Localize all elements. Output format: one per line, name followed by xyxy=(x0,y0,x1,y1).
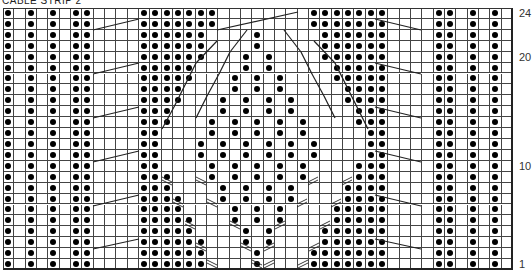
chart-cell xyxy=(26,74,37,85)
purl-dot-icon xyxy=(492,32,498,38)
purl-dot-icon xyxy=(470,97,476,103)
chart-cell xyxy=(184,8,195,19)
chart-cell xyxy=(150,161,161,172)
chart-cell xyxy=(400,106,411,117)
chart-cell xyxy=(479,205,490,216)
chart-cell xyxy=(94,95,105,106)
chart-cell xyxy=(468,226,479,237)
chart-cell xyxy=(468,95,479,106)
purl-dot-icon xyxy=(28,86,34,92)
chart-cell xyxy=(400,128,411,139)
purl-dot-icon xyxy=(243,196,249,202)
chart-cell xyxy=(343,106,354,117)
chart-cell xyxy=(264,52,275,63)
chart-cell xyxy=(502,106,513,117)
chart-cell xyxy=(332,205,343,216)
purl-dot-icon xyxy=(141,86,147,92)
chart-cell xyxy=(298,215,309,226)
chart-cell xyxy=(218,106,229,117)
chart-cell xyxy=(60,63,71,74)
purl-dot-icon xyxy=(28,206,34,212)
chart-cell xyxy=(82,41,93,52)
chart-cell xyxy=(366,30,377,41)
chart-cell xyxy=(252,41,263,52)
purl-dot-icon xyxy=(379,250,385,256)
chart-cell xyxy=(320,30,331,41)
chart-cell xyxy=(343,95,354,106)
chart-cell xyxy=(14,52,25,63)
chart-cell xyxy=(264,106,275,117)
chart-cell xyxy=(354,183,365,194)
chart-cell xyxy=(366,106,377,117)
purl-dot-icon xyxy=(345,21,351,27)
chart-cell xyxy=(3,139,14,150)
purl-dot-icon xyxy=(152,32,158,38)
purl-dot-icon xyxy=(198,250,204,256)
chart-cell xyxy=(196,117,207,128)
chart-cell xyxy=(14,237,25,248)
chart-cell xyxy=(94,117,105,128)
chart-cell xyxy=(434,41,445,52)
purl-dot-icon xyxy=(368,43,374,49)
chart-cell xyxy=(162,19,173,30)
chart-cell xyxy=(320,161,331,172)
purl-dot-icon xyxy=(164,86,170,92)
chart-cell xyxy=(456,150,467,161)
chart-cell xyxy=(71,19,82,30)
chart-cell xyxy=(60,95,71,106)
chart-cell xyxy=(230,106,241,117)
chart-cell xyxy=(400,205,411,216)
chart-cell xyxy=(207,84,218,95)
chart-cell xyxy=(388,63,399,74)
chart-cell xyxy=(309,8,320,19)
chart-cell xyxy=(3,194,14,205)
chart-cell xyxy=(479,248,490,259)
chart-cell xyxy=(116,161,127,172)
chart-cell xyxy=(37,52,48,63)
chart-cell xyxy=(48,19,59,30)
purl-dot-icon xyxy=(300,163,306,169)
purl-dot-icon xyxy=(209,10,215,16)
chart-cell xyxy=(48,63,59,74)
chart-cell xyxy=(343,74,354,85)
chart-cell xyxy=(105,226,116,237)
purl-dot-icon xyxy=(141,75,147,81)
chart-cell xyxy=(105,259,116,270)
purl-dot-icon xyxy=(73,185,79,191)
chart-cell xyxy=(60,205,71,216)
purl-dot-icon xyxy=(141,174,147,180)
chart-cell xyxy=(366,226,377,237)
purl-dot-icon xyxy=(356,54,362,60)
chart-cell xyxy=(400,237,411,248)
purl-dot-icon xyxy=(5,108,11,114)
chart-cell xyxy=(173,259,184,270)
chart-cell xyxy=(218,215,229,226)
purl-dot-icon xyxy=(141,250,147,256)
chart-cell xyxy=(60,161,71,172)
purl-dot-icon xyxy=(186,32,192,38)
chart-cell xyxy=(309,194,320,205)
chart-cell xyxy=(502,19,513,30)
chart-cell xyxy=(14,215,25,226)
chart-cell xyxy=(94,84,105,95)
purl-dot-icon xyxy=(84,250,90,256)
chart-cell xyxy=(275,63,286,74)
purl-dot-icon xyxy=(50,239,56,245)
chart-cell xyxy=(445,8,456,19)
chart-cell xyxy=(139,117,150,128)
chart-cell xyxy=(502,172,513,183)
chart-cell xyxy=(241,237,252,248)
purl-dot-icon xyxy=(73,86,79,92)
chart-cell xyxy=(26,117,37,128)
chart-cell xyxy=(366,172,377,183)
chart-cell xyxy=(388,106,399,117)
chart-cell xyxy=(479,237,490,248)
chart-cell xyxy=(434,226,445,237)
chart-cell xyxy=(377,248,388,259)
purl-dot-icon xyxy=(345,261,351,267)
purl-dot-icon xyxy=(5,75,11,81)
chart-cell xyxy=(241,63,252,74)
chart-cell xyxy=(434,8,445,19)
purl-dot-icon xyxy=(311,250,317,256)
purl-dot-icon xyxy=(288,141,294,147)
